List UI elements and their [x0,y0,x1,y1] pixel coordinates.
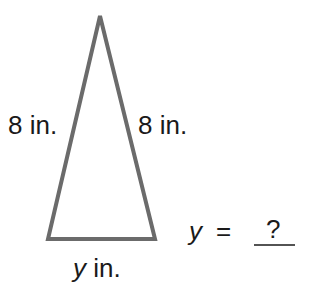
base-variable: y [73,253,86,283]
base-label: y in. [73,255,121,281]
triangle-figure [0,0,316,294]
equation-variable: y [189,218,202,244]
right-side-label: 8 in. [138,112,187,138]
equation-answer: ? [266,216,280,242]
equation-equals: = [216,218,231,244]
left-side-label: 8 in. [8,112,57,138]
base-unit: in. [86,253,121,283]
